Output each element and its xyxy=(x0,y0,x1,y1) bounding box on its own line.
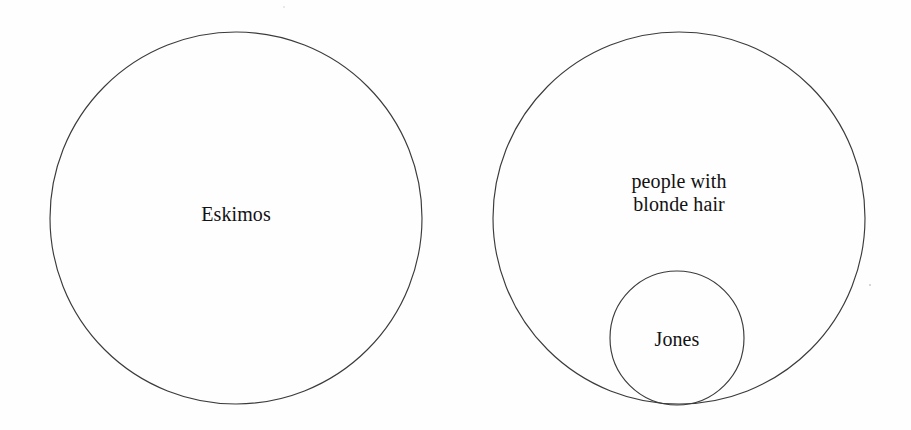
set-label-jones: Jones xyxy=(607,328,747,351)
set-label-eskimos: Eskimos xyxy=(136,203,336,226)
diagram-canvas: Eskimos people with blonde hair Jones xyxy=(0,0,911,430)
scan-speck-top xyxy=(283,6,285,8)
scan-speck-right xyxy=(869,284,871,286)
set-label-people-with-blonde-hair: people with blonde hair xyxy=(579,170,779,217)
